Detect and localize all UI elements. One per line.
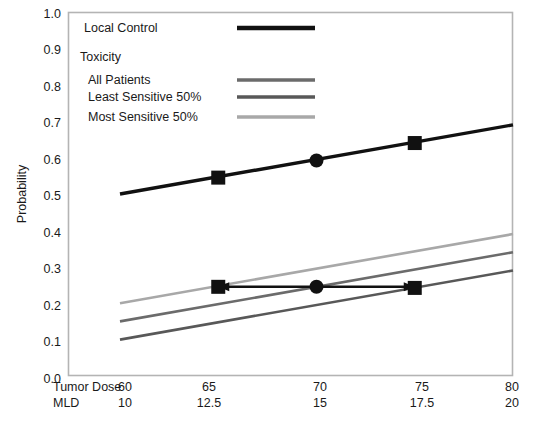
y-tick-0-1: 0.1 — [44, 335, 61, 349]
y-tick-1-0: 1.0 — [44, 7, 61, 21]
plot-frame — [69, 13, 513, 376]
x-tick-mld-15: 15 — [313, 396, 327, 410]
legend-label-most-sensitive: Most Sensitive 50% — [88, 110, 198, 124]
y-tick-0-9: 0.9 — [44, 43, 61, 57]
x-tick-mld-20: 20 — [505, 396, 519, 410]
y-tick-0-7: 0.7 — [44, 116, 61, 130]
marker-layer — [211, 136, 422, 295]
y-tick-0-2: 0.2 — [44, 299, 61, 313]
chart-legend: Local Control Toxicity All Patients Leas… — [80, 21, 315, 124]
y-axis-title: Probability — [15, 164, 29, 223]
x-tick-dose-70: 70 — [313, 380, 327, 394]
legend-label-toxicity: Toxicity — [80, 50, 122, 64]
marker-square-local-control-0 — [211, 171, 225, 185]
annotation-marker-square-2 — [408, 281, 422, 295]
y-tick-0-3: 0.3 — [44, 262, 61, 276]
legend-label-local-control: Local Control — [84, 21, 158, 35]
annotation-marker-square-0 — [211, 280, 225, 294]
y-tick-0-8: 0.8 — [44, 80, 61, 94]
x-axis-row2-name: MLD — [53, 396, 79, 410]
x-axis-row1-name: Tumor Dose — [53, 380, 121, 394]
chart-figure: 1.0 0.9 0.8 0.7 0.6 0.5 0.4 0.3 0.2 0.1 … — [0, 0, 541, 427]
x-tick-mld-17-5: 17.5 — [410, 396, 434, 410]
x-tick-dose-80: 80 — [505, 380, 519, 394]
y-tick-0-4: 0.4 — [44, 226, 61, 240]
x-axis-row-tumor-dose: Tumor Dose 60 65 70 75 80 — [53, 380, 519, 394]
marker-square-local-control-2 — [408, 136, 422, 150]
legend-label-all-patients: All Patients — [88, 73, 151, 87]
marker-circle-local-control-1 — [310, 154, 324, 168]
y-tick-0-5: 0.5 — [44, 189, 61, 203]
annotation-marker-circle-1 — [310, 280, 324, 294]
x-tick-dose-75: 75 — [415, 380, 429, 394]
probability-vs-dose-chart: 1.0 0.9 0.8 0.7 0.6 0.5 0.4 0.3 0.2 0.1 … — [0, 0, 541, 427]
x-tick-mld-10: 10 — [118, 396, 132, 410]
x-tick-dose-60: 60 — [118, 380, 132, 394]
x-tick-mld-12-5: 12.5 — [197, 396, 221, 410]
x-axis-row-mld: MLD 10 12.5 15 17.5 20 — [53, 396, 519, 410]
y-tick-0-6: 0.6 — [44, 153, 61, 167]
x-tick-dose-65: 65 — [202, 380, 216, 394]
legend-label-least-sensitive: Least Sensitive 50% — [88, 90, 201, 104]
